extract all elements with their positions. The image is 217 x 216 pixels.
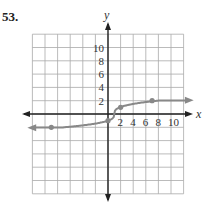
svg-text:x: x — [195, 107, 202, 121]
svg-text:6: 6 — [99, 68, 105, 80]
svg-text:4: 4 — [99, 81, 105, 93]
tick-labels: 246810246810 — [93, 42, 180, 129]
svg-text:10: 10 — [93, 42, 105, 54]
data-point — [118, 105, 123, 110]
svg-text:4: 4 — [130, 116, 136, 128]
data-point — [49, 125, 54, 130]
svg-text:8: 8 — [99, 55, 105, 67]
svg-text:8: 8 — [155, 116, 161, 128]
svg-text:2: 2 — [118, 116, 124, 128]
axes: xy — [22, 8, 202, 202]
data-point — [150, 98, 155, 103]
svg-text:10: 10 — [168, 116, 180, 128]
svg-text:y: y — [103, 8, 110, 22]
graph: xy 246810246810 — [0, 0, 217, 216]
data-point — [105, 118, 110, 123]
svg-text:2: 2 — [99, 95, 105, 107]
svg-text:6: 6 — [143, 116, 149, 128]
